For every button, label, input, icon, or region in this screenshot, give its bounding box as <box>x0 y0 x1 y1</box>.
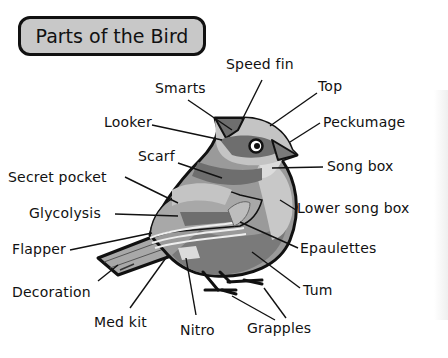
label-grapples: Grapples <box>247 320 311 336</box>
label-speed-fin: Speed fin <box>226 56 294 72</box>
label-song-box: Song box <box>327 158 394 174</box>
label-flapper: Flapper <box>12 241 66 257</box>
label-peckumage: Peckumage <box>323 114 405 130</box>
bird-body <box>150 118 297 276</box>
label-epaulettes: Epaulettes <box>300 240 377 256</box>
label-smarts: Smarts <box>155 80 206 96</box>
label-secret-pocket: Secret pocket <box>8 169 107 185</box>
label-top: Top <box>318 78 342 94</box>
label-glycolysis: Glycolysis <box>29 205 101 221</box>
label-looker: Looker <box>104 114 152 130</box>
page-edge-shadow <box>434 90 448 320</box>
label-med-kit: Med kit <box>94 314 147 330</box>
label-nitro: Nitro <box>180 322 215 338</box>
label-lower-song-box: Lower song box <box>297 200 410 216</box>
label-tum: Tum <box>303 282 333 298</box>
label-decoration: Decoration <box>12 284 91 300</box>
label-scarf: Scarf <box>138 148 175 164</box>
